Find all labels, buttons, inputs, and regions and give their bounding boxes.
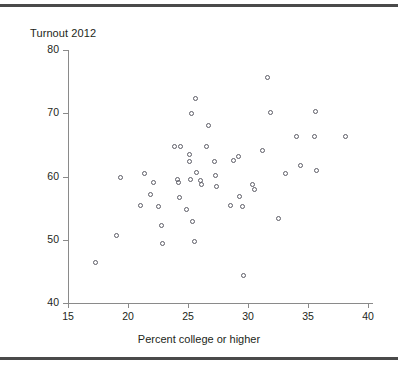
data-point [213,173,218,178]
data-point [240,204,245,209]
data-point [214,184,219,189]
data-point [276,216,281,221]
data-point [228,203,233,208]
data-point [204,144,209,149]
data-point [250,182,255,187]
data-point [189,111,194,116]
data-point [194,170,199,175]
data-point [268,110,273,115]
data-point [156,204,161,209]
y-axis-line [68,50,69,303]
y-tick-label-60: 60 [29,170,59,182]
x-tick-40 [368,303,369,308]
data-point [206,123,211,128]
x-tick-label-20: 20 [113,310,143,322]
data-point [294,134,299,139]
data-point [142,171,147,176]
data-point [343,134,348,139]
data-point [313,109,318,114]
data-point [298,163,303,168]
data-point [283,171,288,176]
data-point [178,144,183,149]
data-point [231,158,236,163]
data-point [93,260,98,265]
x-tick-label-15: 15 [53,310,83,322]
scatter-plot: Turnout 2012 4050607080 152025303540 Per… [0,7,398,357]
x-tick-30 [248,303,249,308]
data-point [187,159,192,164]
y-tick-label-50: 50 [29,233,59,245]
data-point [151,180,156,185]
x-tick-15 [68,303,69,308]
data-point [172,144,177,149]
data-point [176,180,181,185]
data-point [177,195,182,200]
x-axis-label: Percent college or higher [0,333,398,345]
data-point [199,182,204,187]
data-point [184,207,189,212]
data-point [148,192,153,197]
x-tick-25 [188,303,189,308]
data-point [190,219,195,224]
x-axis-line [68,303,373,304]
data-point [252,187,257,192]
data-point [187,152,192,157]
x-tick-label-25: 25 [173,310,203,322]
data-point [160,241,165,246]
data-point [241,273,246,278]
y-tick-70 [63,113,68,114]
y-tick-label-40: 40 [29,296,59,308]
y-tick-60 [63,177,68,178]
data-point [192,239,197,244]
data-point [314,168,319,173]
bottom-rule [0,357,398,360]
data-point [159,223,164,228]
x-tick-label-30: 30 [233,310,263,322]
y-tick-label-70: 70 [29,106,59,118]
data-point [236,154,241,159]
data-point [188,177,193,182]
data-point [312,134,317,139]
data-point [265,75,270,80]
data-point [212,159,217,164]
chart-title: Turnout 2012 [30,27,96,39]
data-point [260,148,265,153]
data-point [193,96,198,101]
y-tick-80 [63,50,68,51]
x-tick-label-35: 35 [293,310,323,322]
data-point [138,203,143,208]
x-tick-label-40: 40 [353,310,383,322]
data-point [114,233,119,238]
data-point [118,175,123,180]
data-point [237,194,242,199]
y-tick-label-80: 80 [29,43,59,55]
figure-container: Turnout 2012 4050607080 152025303540 Per… [0,0,398,366]
x-tick-20 [128,303,129,308]
x-tick-35 [308,303,309,308]
y-tick-50 [63,240,68,241]
